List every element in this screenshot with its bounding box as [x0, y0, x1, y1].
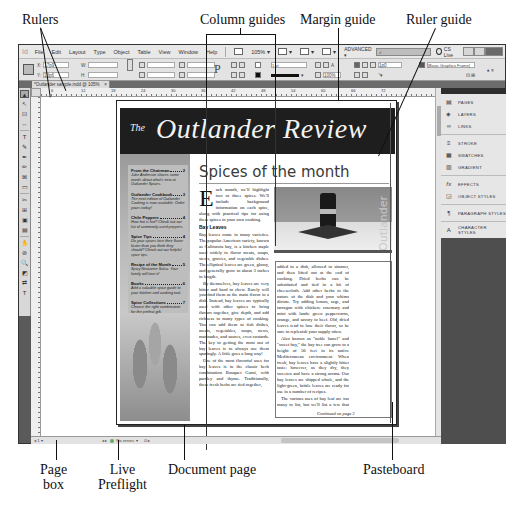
swap-fill-stroke-icon[interactable]: ⇄: [20, 279, 29, 287]
scissors-tool-icon[interactable]: ✂: [20, 196, 29, 204]
menu-object[interactable]: Object: [110, 49, 134, 55]
leader-pasteboard: [392, 402, 393, 460]
open-document-icon[interactable]: ⊡ ▸: [138, 438, 150, 443]
panel-label: SWATCHES: [458, 153, 484, 158]
shear-icon: [179, 72, 185, 78]
live-preflight[interactable]: No errors▾: [110, 438, 138, 443]
flip-horizontal-icon[interactable]: [231, 62, 237, 68]
direct-selection-tool-icon[interactable]: ↖: [20, 100, 29, 108]
scale-x-field[interactable]: [147, 62, 175, 68]
hand-tool-icon[interactable]: ✋: [20, 239, 29, 247]
panel-stroke[interactable]: ≡STROKE: [441, 137, 506, 149]
effects-icon[interactable]: [323, 62, 329, 68]
center-content-icon[interactable]: [370, 62, 376, 68]
menu-type[interactable]: Type: [90, 49, 110, 55]
gutter-field[interactable]: 1p0: [378, 62, 402, 68]
object-style-dropdown[interactable]: [Basic Graphics Frame]: [427, 62, 475, 68]
toc-desc: Jake Anderson shares some words about wh…: [131, 173, 185, 187]
panel-pages[interactable]: ▤PAGES: [441, 96, 506, 108]
column-guide-left[interactable]: [206, 96, 207, 450]
flip-vertical-icon[interactable]: [231, 72, 237, 78]
drop-shadow-icon[interactable]: [315, 62, 321, 68]
cs-live-button[interactable]: CS Live: [431, 46, 463, 58]
text-column-1[interactable]: E ach month, we'll highlight two or thre…: [199, 187, 269, 413]
line-tool-icon[interactable]: ✎: [20, 143, 29, 151]
rectangle-frame-tool-icon[interactable]: ⊠: [20, 173, 29, 181]
menu-window[interactable]: Window: [174, 49, 202, 55]
fill-swatch[interactable]: [255, 62, 261, 68]
panel-layers[interactable]: ◈LAYERS: [441, 108, 506, 120]
vertical-ruler[interactable]: [31, 97, 41, 436]
menu-layout[interactable]: Layout: [65, 49, 90, 55]
gradient-swatch-tool-icon[interactable]: ▣: [20, 216, 29, 224]
view-options-button[interactable]: ▾: [274, 48, 296, 55]
ruler-origin[interactable]: [31, 88, 41, 97]
panel-gradient[interactable]: ▥GRADIENT: [441, 161, 506, 173]
pen-tool-icon[interactable]: ✒: [20, 153, 29, 161]
corner-options-icon[interactable]: ⌝▾: [378, 73, 383, 78]
maximize-button[interactable]: [474, 47, 485, 56]
rotate-field[interactable]: [187, 62, 215, 68]
menu-table[interactable]: Table: [133, 49, 154, 55]
menu-file[interactable]: File: [31, 49, 48, 55]
reference-point-icon[interactable]: [23, 64, 34, 75]
document-page[interactable]: The Outlander Review From the Chairman2 …: [116, 100, 397, 425]
fit-frame-icon[interactable]: [362, 62, 368, 68]
menu-view[interactable]: View: [155, 49, 175, 55]
panel-swatches[interactable]: ▦SWATCHES: [441, 149, 506, 161]
page-nav-arrows[interactable]: ◂ ▸: [99, 438, 110, 443]
panel-paragraph-styles[interactable]: ¶PARAGRAPH STYLES: [441, 207, 506, 219]
panel-menu: ♦≡: [487, 61, 494, 79]
zoom-tool-icon[interactable]: 🔍: [20, 259, 29, 267]
workspace-switcher[interactable]: ADVANCED ▾: [340, 46, 375, 58]
formatting-affects-text-icon[interactable]: T: [20, 289, 29, 297]
gutter-value: 1p0: [379, 63, 387, 68]
fit-content-icon[interactable]: [354, 62, 360, 68]
select-container-icon[interactable]: [239, 62, 245, 68]
fill-proportionally-icon[interactable]: [354, 72, 360, 78]
page-box[interactable]: ◂ 1 ▾: [31, 438, 99, 443]
free-transform-tool-icon[interactable]: ⊞: [20, 206, 29, 214]
minimize-button[interactable]: [463, 47, 474, 56]
fit-proportionally-icon[interactable]: [362, 72, 368, 78]
height-field[interactable]: [88, 72, 118, 78]
select-content-icon[interactable]: [239, 72, 245, 78]
width-field[interactable]: [88, 62, 118, 68]
bridge-button[interactable]: [230, 48, 247, 55]
page-tool-icon[interactable]: ⊡: [20, 110, 29, 118]
pencil-tool-icon[interactable]: ✏: [20, 163, 29, 171]
panel-links[interactable]: ∞LINKS: [441, 120, 506, 132]
arrange-documents-button[interactable]: ▾: [318, 48, 340, 55]
fill-stroke-icon[interactable]: ◩: [20, 269, 29, 277]
column-guide-right[interactable]: [275, 96, 276, 246]
shear-field[interactable]: [187, 72, 215, 78]
type-tool-icon[interactable]: T: [20, 133, 29, 141]
chain-link-icon[interactable]: [127, 59, 133, 71]
screen-mode-button[interactable]: ▾: [296, 48, 318, 55]
scale-y-field[interactable]: [147, 72, 175, 78]
tools-panel-empty: [19, 316, 31, 436]
spice-photo[interactable]: Outlander: [274, 187, 392, 253]
text-wrap-icon[interactable]: A: [331, 63, 334, 68]
panel-object-styles[interactable]: ◲OBJECT STYLES: [441, 190, 506, 202]
leader-live-preflight: [118, 440, 119, 460]
horizontal-ruler[interactable]: 6 12 18 24 30 36 42 48 54 60 66 72: [41, 88, 435, 97]
text-column-2[interactable]: added to a dish, allowed to simmer, and …: [277, 264, 349, 409]
stroke-weight-field[interactable]: 1 pt: [271, 62, 307, 68]
eyedropper-tool-icon[interactable]: ⊘: [20, 249, 29, 257]
horizontal-scrollbar[interactable]: [281, 438, 399, 443]
menu-help[interactable]: Help: [202, 49, 221, 55]
zoom-level-dropdown[interactable]: 105%▾: [247, 49, 274, 55]
gradient-feather-tool-icon[interactable]: ▤: [20, 226, 29, 234]
object-style-options-icon[interactable]: ⊡ ⊞: [466, 73, 475, 78]
rectangle-tool-icon[interactable]: ▭: [20, 183, 29, 191]
lightbulb-icon[interactable]: ♦: [487, 68, 489, 73]
stroke-swatch[interactable]: [255, 72, 261, 78]
close-button[interactable]: [485, 47, 503, 56]
search-icon: ⌕: [379, 49, 382, 55]
selection-tool-icon[interactable]: ▲: [20, 90, 29, 98]
gap-tool-icon[interactable]: ↔: [20, 120, 29, 128]
panel-effects[interactable]: fxEFFECTS: [441, 178, 506, 190]
panel-character-styles[interactable]: ACHARACTER STYLES: [441, 224, 506, 236]
panel-menu-icon[interactable]: ≡: [491, 68, 494, 73]
